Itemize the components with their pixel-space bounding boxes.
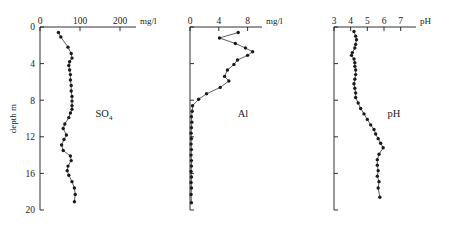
data-point-ph (355, 38, 358, 41)
data-point-al (234, 42, 237, 45)
data-point-ph (353, 87, 356, 90)
unit-label-ph: pH (420, 16, 432, 26)
data-point-so4 (66, 164, 69, 167)
depth-axis-title: depth m (8, 104, 18, 133)
data-point-al (190, 120, 193, 123)
data-point-al (197, 98, 200, 101)
chart-canvas: 0100200mg/l048121620SO4048mg/lAl34567pHp… (0, 0, 464, 229)
data-point-ph (374, 132, 377, 135)
data-point-al (190, 115, 193, 118)
value-tick-label-ph: 3 (332, 16, 337, 26)
data-point-al (190, 201, 193, 204)
data-point-al (190, 137, 193, 140)
depth-tick-label: 16 (26, 169, 36, 179)
data-point-ph (377, 180, 380, 183)
data-point-ph (354, 73, 357, 76)
data-point-ph (381, 146, 384, 149)
data-point-so4 (62, 127, 65, 130)
data-point-so4 (67, 64, 70, 67)
data-point-ph (376, 158, 379, 161)
data-point-so4 (74, 193, 77, 196)
data-point-al (190, 164, 193, 167)
data-point-al (218, 36, 221, 39)
data-point-so4 (59, 35, 62, 38)
data-point-ph (353, 61, 356, 64)
data-point-so4 (70, 89, 73, 92)
data-point-al (189, 131, 192, 134)
data-point-so4 (67, 174, 70, 177)
data-point-so4 (69, 78, 72, 81)
data-point-so4 (69, 73, 72, 76)
data-point-ph (352, 82, 355, 85)
panel-al: 048mg/lAl (188, 16, 283, 211)
value-tick-label-al: 0 (188, 16, 193, 26)
depth-tick-label: 20 (26, 205, 36, 215)
value-tick-label-ph: 7 (398, 16, 403, 26)
data-point-ph (377, 152, 380, 155)
data-point-ph (376, 186, 379, 189)
data-point-al (244, 46, 247, 49)
panel-ph: 34567pHpH (332, 16, 432, 211)
data-point-so4 (65, 133, 68, 136)
data-point-so4 (69, 111, 72, 114)
data-point-al (190, 159, 193, 162)
data-point-so4 (70, 52, 73, 55)
value-tick-label-al: 4 (216, 16, 221, 26)
data-point-al (223, 75, 226, 78)
data-point-al (189, 193, 192, 196)
data-point-ph (354, 34, 357, 37)
data-point-so4 (63, 122, 66, 125)
data-point-al (237, 31, 240, 34)
depth-profile-figure: 0100200mg/l048121620SO4048mg/lAl34567pHp… (0, 0, 464, 229)
data-point-al (190, 186, 193, 189)
data-point-ph (353, 46, 356, 49)
data-point-so4 (67, 116, 70, 119)
data-point-so4 (70, 95, 73, 98)
data-point-al (190, 109, 193, 112)
data-point-ph (353, 65, 356, 68)
data-point-so4 (70, 108, 73, 111)
data-point-ph (378, 195, 381, 198)
data-point-so4 (70, 104, 73, 107)
data-point-ph (359, 107, 362, 110)
unit-label-so4: mg/l (140, 16, 157, 26)
value-tick-label-ph: 4 (348, 16, 353, 26)
data-point-al (236, 58, 239, 61)
value-tick-label-so4: 0 (38, 16, 43, 26)
panel-label-al: Al (238, 108, 249, 119)
depth-tick-label: 8 (30, 96, 35, 106)
value-tick-label-al: 8 (245, 16, 250, 26)
data-point-so4 (70, 180, 73, 183)
data-point-al (190, 175, 193, 178)
depth-tick-label: 12 (26, 132, 36, 142)
data-point-ph (362, 112, 365, 115)
data-point-ph (352, 57, 355, 60)
data-point-ph (354, 96, 357, 99)
panel-label-so4: SO4 (96, 108, 113, 122)
data-point-so4 (68, 60, 71, 63)
data-point-al (246, 54, 249, 57)
panel-so4: 0100200mg/l048121620SO4 (26, 16, 158, 216)
data-point-ph (376, 163, 379, 166)
data-point-al (189, 142, 192, 145)
data-point-so4 (70, 159, 73, 162)
data-point-ph (376, 137, 379, 140)
value-tick-label-ph: 6 (382, 16, 387, 26)
data-point-al (227, 79, 230, 82)
data-point-so4 (60, 143, 63, 146)
data-point-so4 (66, 169, 69, 172)
data-point-ph (376, 174, 379, 177)
data-point-ph (372, 128, 375, 131)
data-point-ph (376, 169, 379, 172)
data-point-so4 (62, 149, 65, 152)
data-point-so4 (62, 138, 65, 141)
data-point-al (189, 153, 192, 156)
data-point-ph (353, 77, 356, 80)
data-point-ph (354, 68, 357, 71)
value-tick-label-ph: 5 (365, 16, 370, 26)
panel-label-ph: pH (388, 108, 401, 119)
data-point-ph (379, 142, 382, 145)
data-point-al (190, 126, 193, 129)
series-line-ph (352, 32, 384, 198)
data-point-so4 (66, 45, 69, 48)
